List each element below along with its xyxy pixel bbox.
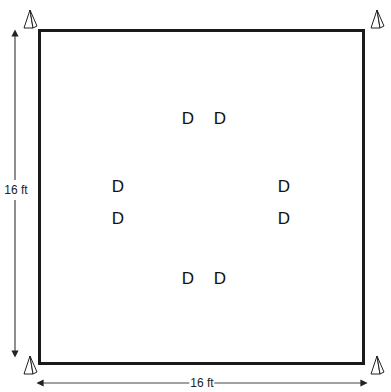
item-d-5: D	[112, 210, 124, 227]
item-d-7: D	[182, 270, 194, 287]
pyramid-icon-bottom-right	[371, 356, 384, 374]
floor-plan-diagram: 16 ft 16 ft D D D D D D D D	[0, 0, 391, 392]
height-dimension-label: 16 ft	[3, 184, 28, 196]
item-d-8: D	[214, 270, 226, 287]
item-d-4: D	[278, 178, 290, 195]
pyramid-icon-top-right	[371, 10, 384, 28]
pyramid-icon-bottom-left	[24, 356, 37, 374]
item-d-2: D	[214, 110, 226, 127]
pyramid-icon-top-left	[24, 10, 37, 28]
item-d-1: D	[182, 110, 194, 127]
room-outline	[38, 29, 365, 365]
item-d-6: D	[278, 210, 290, 227]
width-dimension-label: 16 ft	[189, 377, 214, 389]
item-d-3: D	[112, 178, 124, 195]
